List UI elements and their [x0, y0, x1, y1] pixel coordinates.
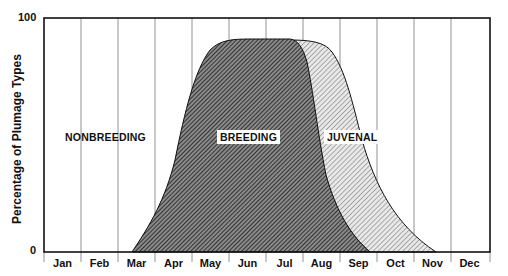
month-label-feb: Feb — [81, 257, 118, 269]
month-label-jul: Jul — [266, 257, 303, 269]
y-axis-label: Percentage of Plumage Types — [10, 54, 24, 224]
month-label-dec: Dec — [451, 257, 488, 269]
month-label-jan: Jan — [44, 257, 81, 269]
plumage-chart: 100 0 Percentage of Plumage Types NONBRE… — [0, 0, 508, 276]
month-label-jun: Jun — [229, 257, 266, 269]
month-label-oct: Oct — [377, 257, 414, 269]
breeding-label: BREEDING — [217, 130, 280, 144]
juvenal-label: JUVENAL — [324, 130, 380, 144]
month-label-apr: Apr — [155, 257, 192, 269]
month-label-sep: Sep — [340, 257, 377, 269]
y-tick-0: 0 — [30, 244, 36, 256]
y-tick-100: 100 — [18, 11, 36, 23]
nonbreeding-label: NONBREEDING — [62, 130, 149, 144]
month-label-may: May — [192, 257, 229, 269]
month-label-mar: Mar — [118, 257, 155, 269]
month-label-nov: Nov — [414, 257, 451, 269]
month-label-aug: Aug — [303, 257, 340, 269]
